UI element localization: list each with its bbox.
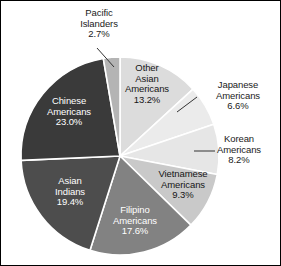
slice-label-value: 9.3% xyxy=(141,190,225,201)
slice-label-korean-americans: Korean Americans 8.2% xyxy=(198,134,280,166)
slice-label-asian-indians: Asian Indians 19.4% xyxy=(34,176,106,208)
slice-label-value: 23.0% xyxy=(27,117,111,128)
slice-label-value: 19.4% xyxy=(34,197,106,208)
slice-label-value: 8.2% xyxy=(198,155,280,166)
slice-label-vietnamese-americans: Vietnamese Americans 9.3% xyxy=(141,169,225,201)
slice-label-filipino-americans: Filipino Americans 17.6% xyxy=(96,205,174,237)
pie-chart-figure: Pacific Islanders 2.7% Other Asian Ameri… xyxy=(0,0,281,266)
slice-label-value: 13.2% xyxy=(109,95,185,106)
slice-label-chinese-americans: Chinese Americans 23.0% xyxy=(27,96,111,128)
slice-label-value: 6.6% xyxy=(197,101,279,112)
slice-label-other-asian-americans: Other Asian Americans 13.2% xyxy=(109,63,185,106)
slice-label-value: 17.6% xyxy=(96,226,174,237)
slice-label-japanese-americans: Japanese Americans 6.6% xyxy=(197,80,279,112)
slice-label-pacific-islanders: Pacific Islanders 2.7% xyxy=(57,8,141,40)
slice-label-value: 2.7% xyxy=(57,29,141,40)
